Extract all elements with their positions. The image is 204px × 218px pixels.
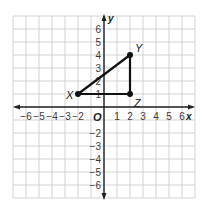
x-axis-arrow-left-icon xyxy=(13,105,20,110)
y-tick-label: 6 xyxy=(95,24,101,35)
origin-label: O xyxy=(93,111,102,123)
y-tick-label: −2 xyxy=(90,128,102,139)
y-tick-label: −5 xyxy=(90,167,102,178)
y-tick-label: −3 xyxy=(90,141,102,152)
y-tick-label: 5 xyxy=(95,37,101,48)
y-axis-arrow-up-icon xyxy=(102,14,107,21)
x-tick-label: −2 xyxy=(72,111,84,122)
y-tick-label: 4 xyxy=(95,50,101,61)
y-axis-arrow-down-icon xyxy=(102,193,107,200)
coordinate-plane: x y O −6−5−4−3−2123456654321−2−3−4−5−6 X… xyxy=(0,0,204,218)
x-tick-label: 5 xyxy=(166,111,172,122)
point-z xyxy=(127,91,133,97)
x-tick-label: −6 xyxy=(20,111,32,122)
x-tick-label: −4 xyxy=(46,111,58,122)
point-x xyxy=(75,91,81,97)
y-tick-label: −4 xyxy=(90,154,102,165)
point-label-y: Y xyxy=(135,42,143,54)
x-axis-arrow-right-icon xyxy=(188,105,195,110)
x-tick-label: −5 xyxy=(33,111,45,122)
y-tick-label: 3 xyxy=(95,63,101,74)
y-axis-label: y xyxy=(107,13,114,24)
x-tick-label: 3 xyxy=(140,111,146,122)
x-tick-label: 2 xyxy=(127,111,133,122)
x-tick-label: 1 xyxy=(114,111,120,122)
x-axis-label: x xyxy=(185,111,192,122)
x-tick-label: 6 xyxy=(179,111,185,122)
y-tick-label: −6 xyxy=(90,180,102,191)
point-label-z: Z xyxy=(133,97,142,109)
x-tick-label: 4 xyxy=(153,111,159,122)
x-tick-label: −3 xyxy=(59,111,71,122)
point-y xyxy=(127,52,133,58)
point-label-x: X xyxy=(65,89,74,101)
